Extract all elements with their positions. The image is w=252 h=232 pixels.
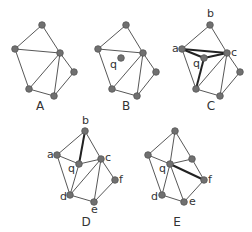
vertex-d xyxy=(67,192,74,199)
vertex-q xyxy=(201,55,208,62)
vertex-fr xyxy=(153,69,160,76)
vertex-label-f: f xyxy=(208,173,213,186)
edge-l-bl xyxy=(15,49,29,89)
edge-bl-br xyxy=(29,89,54,96)
vertex-label-c: c xyxy=(231,46,237,59)
edge-l-r xyxy=(15,49,60,53)
panel-label-e: E xyxy=(173,215,181,229)
edge-l-r xyxy=(98,49,143,53)
panel-label-d: D xyxy=(81,215,90,229)
vertex-c xyxy=(189,156,196,163)
vertex-label-q: q xyxy=(193,57,200,70)
vertex-b xyxy=(207,22,214,29)
vertex-fr xyxy=(71,69,78,76)
vertex-q xyxy=(76,161,83,168)
panel-label-b: B xyxy=(122,99,130,113)
vertex-c xyxy=(224,50,231,57)
edge-a-d xyxy=(148,155,162,195)
vertex-b xyxy=(82,128,89,135)
edge-bl-br xyxy=(112,89,137,96)
vertex-d xyxy=(159,192,166,199)
vertex-r xyxy=(140,50,147,57)
panel-b: qB xyxy=(95,22,160,113)
vertex-a xyxy=(179,46,186,53)
vertex-a xyxy=(145,152,152,159)
edge-d-e xyxy=(70,195,94,202)
vertex-label-b: b xyxy=(82,114,89,127)
vertex-bl xyxy=(109,86,116,93)
panel-label-a: A xyxy=(36,99,45,113)
vertex-label-e: e xyxy=(91,203,98,216)
vertex-l xyxy=(95,46,102,53)
panel-c: bacqC xyxy=(172,7,243,113)
edge-b-c xyxy=(210,25,227,53)
delaunay-insertion-diagram: A qB bacqC baqcfdeD qfdeE xyxy=(0,0,252,232)
vertex-r xyxy=(57,50,64,57)
vertex-label-e: e xyxy=(189,195,196,208)
panel-e: qfdeE xyxy=(145,128,213,229)
vertex-a xyxy=(54,152,61,159)
edge-b-a xyxy=(148,131,175,155)
edge-bl-br xyxy=(196,89,220,96)
vertex-label-b: b xyxy=(207,7,214,20)
vertex-q xyxy=(118,55,125,62)
vertex-label-f: f xyxy=(119,173,124,186)
vertex-label-c: c xyxy=(105,151,111,164)
edge-b-a xyxy=(182,25,210,49)
vertex-label-a: a xyxy=(47,148,54,161)
vertex-label-q: q xyxy=(68,162,75,175)
panel-label-c: C xyxy=(207,99,215,113)
edge-b-c xyxy=(175,131,192,159)
vertex-b xyxy=(172,128,179,135)
edge-t-l xyxy=(98,25,126,49)
vertex-bl xyxy=(26,86,33,93)
vertex-label-a: a xyxy=(172,42,179,55)
edge-b-c xyxy=(85,131,101,159)
vertex-q xyxy=(167,161,174,168)
vertex-label-q: q xyxy=(110,58,117,71)
vertex-br xyxy=(134,93,141,100)
vertex-l xyxy=(12,46,19,53)
edge-a-d xyxy=(57,155,70,195)
edge-t-r xyxy=(126,25,143,53)
vertex-br xyxy=(51,93,58,100)
vertex-fr xyxy=(237,69,244,76)
vertex-t xyxy=(123,22,130,29)
edge-t-r xyxy=(42,25,60,53)
vertex-label-d: d xyxy=(60,190,67,203)
panel-a: A xyxy=(12,22,78,113)
edge-b-q xyxy=(170,131,175,164)
vertex-f xyxy=(201,177,208,184)
panel-d: baqcfdeD xyxy=(47,114,124,229)
vertex-label-q: q xyxy=(159,162,166,175)
vertex-f xyxy=(112,177,119,184)
vertex-e xyxy=(181,199,188,206)
vertex-label-d: d xyxy=(151,190,158,203)
vertex-br xyxy=(217,93,224,100)
vertex-t xyxy=(39,22,46,29)
edge-t-l xyxy=(15,25,42,49)
vertex-bl xyxy=(193,86,200,93)
vertex-c xyxy=(98,156,105,163)
